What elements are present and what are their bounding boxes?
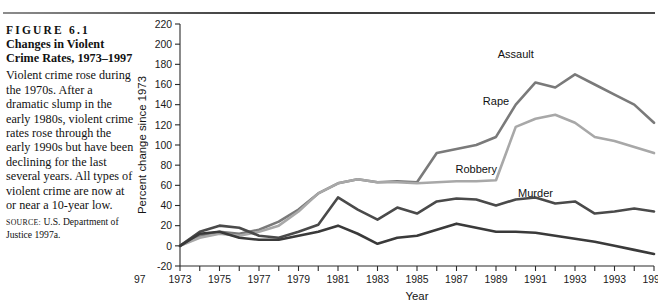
y-tick-label: 180	[155, 59, 173, 70]
figure-source: SOURCE: U.S. Department of Justice 1997a…	[6, 216, 134, 240]
y-axis-title: Percent change since 1973	[136, 76, 148, 214]
x-tick-label: 1985	[405, 274, 428, 285]
y-tick-label: 140	[155, 99, 173, 110]
y-tick-label: 200	[155, 39, 173, 50]
x-tick-label: 1981	[326, 274, 349, 285]
x-tick-label: 1979	[287, 274, 310, 285]
y-tick-label: 40	[160, 200, 172, 211]
x-tick-label: 1983	[366, 274, 389, 285]
x-tick-label: 1995	[642, 274, 658, 285]
figure-title: Changes in Violent Crime Rates, 1973–199…	[6, 37, 134, 65]
series-label: Robbery	[455, 163, 497, 175]
x-tick-label: 1989	[484, 274, 507, 285]
figure-container: FIGURE 6.1 Changes in Violent Crime Rate…	[0, 0, 660, 305]
y-tick-label: 120	[155, 120, 173, 131]
figure-title-line2: Crime Rates, 1973–1997	[6, 51, 132, 65]
y-tick-label: 100	[155, 140, 173, 151]
figure-caption: FIGURE 6.1 Changes in Violent Crime Rate…	[6, 24, 134, 241]
x-tick-label: 1997	[134, 274, 146, 285]
x-tick-label: 1977	[247, 274, 270, 285]
series-label: Murder	[518, 187, 553, 199]
chart-plot-area: -20020406080100120140160180200220 197319…	[134, 14, 658, 302]
y-tick-label: 0	[166, 241, 172, 252]
x-tick-label: 1991	[524, 274, 547, 285]
source-kicker: SOURCE:	[6, 218, 41, 227]
x-tick-label: 1993	[603, 274, 626, 285]
y-tick-label: 220	[155, 19, 173, 30]
y-tick-label: 20	[160, 220, 172, 231]
x-axis-title: Year	[405, 290, 428, 302]
y-tick-label: 80	[160, 160, 172, 171]
y-tick-label: -20	[157, 261, 172, 272]
series-lines	[180, 74, 654, 253]
series-label: Rape	[483, 95, 509, 107]
line-chart: -20020406080100120140160180200220 197319…	[134, 14, 658, 302]
x-tick-label: 1973	[168, 274, 191, 285]
y-axis: -20020406080100120140160180200220	[155, 19, 180, 272]
series-line	[180, 224, 654, 254]
x-tick-label: 1975	[208, 274, 231, 285]
figure-description: Violent crime rose during the 1970s. Aft…	[6, 68, 134, 212]
series-line	[180, 74, 654, 245]
y-tick-label: 60	[160, 180, 172, 191]
figure-number: FIGURE 6.1	[6, 24, 134, 36]
y-tick-label: 160	[155, 79, 173, 90]
figure-title-line1: Changes in Violent	[6, 37, 104, 51]
x-tick-label: 1987	[445, 274, 468, 285]
series-label: Assault	[498, 48, 534, 60]
x-axis: 1973197519771979198119831985198719891991…	[134, 266, 658, 285]
x-tick-label: 1993	[563, 274, 586, 285]
